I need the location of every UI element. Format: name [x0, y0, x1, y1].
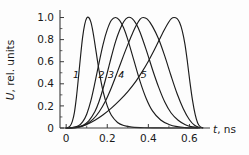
- curve-number-2: 2: [98, 69, 104, 80]
- curve-number-1: 1: [73, 69, 79, 80]
- y-tick-label: 0.2: [37, 100, 54, 112]
- y-tick-label: 0: [47, 122, 54, 134]
- curve-number-3: 3: [108, 69, 114, 80]
- x-axis-label: t, ns: [213, 123, 236, 135]
- y-axis-label: U, rel. units: [4, 40, 16, 100]
- x-tick-label: 0.4: [140, 132, 157, 144]
- curve-number-4: 4: [118, 69, 124, 80]
- y-tick-label: 0.6: [37, 55, 54, 67]
- chart-figure: 00.20.40.60.81.000.20.40.6 12345 t, ns U…: [0, 0, 249, 155]
- y-tick-label: 0.8: [37, 33, 54, 45]
- y-tick-label: 1.0: [37, 11, 54, 23]
- x-tick-label: 0.2: [99, 132, 116, 144]
- curve-number-5: 5: [141, 69, 147, 80]
- x-tick-label: 0: [63, 132, 70, 144]
- y-tick-label: 0.4: [37, 77, 54, 89]
- pulse-waveform-chart: 00.20.40.60.81.000.20.40.6 12345 t, ns U…: [0, 0, 249, 155]
- x-tick-label: 0.6: [181, 132, 198, 144]
